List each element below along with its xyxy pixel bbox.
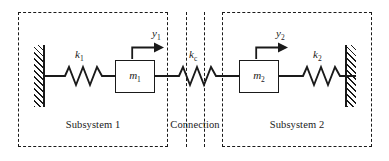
mass-m1-subscript: 1 [137, 75, 141, 84]
displacement-y2-label: y2 [276, 28, 285, 42]
fixed-wall-left [33, 45, 45, 107]
spring-k2-label: k2 [313, 49, 322, 63]
displacement-y2-subscript: 2 [281, 33, 285, 42]
mass-m2-symbol: m [253, 69, 261, 81]
spring-k2 [299, 64, 345, 88]
spring-k1-label: k1 [75, 49, 84, 63]
spring-k2-subscript: 2 [318, 54, 322, 63]
connector-rod-kc-to-m2 [220, 75, 240, 77]
spring-k1-subscript: 1 [80, 54, 84, 63]
connector-rod-wall-left-to-k1 [45, 75, 62, 77]
wall-hatching-left [34, 45, 43, 107]
connector-rod-k2-to-wall-right [344, 75, 356, 77]
connector-rod-m2-to-k2 [278, 75, 300, 77]
mass-m1-symbol: m [129, 69, 137, 81]
subsystem-2-caption: Subsystem 2 [222, 119, 372, 130]
spring-k1 [61, 64, 107, 88]
spring-kc-label: kc [189, 49, 197, 63]
mass-m2-subscript: 2 [261, 75, 265, 84]
mass-m2-label: m2 [253, 70, 265, 84]
displacement-y1-label: y1 [152, 28, 161, 42]
mass-m1-label: m1 [129, 70, 141, 84]
mass-m1: m1 [115, 60, 155, 93]
connection-caption: Connection [160, 119, 230, 130]
subsystem-1-caption: Subsystem 1 [18, 119, 168, 130]
spring-kc [175, 64, 221, 88]
displacement-y1-subscript: 1 [157, 33, 161, 42]
mass-spring-system-diagram: k1 m1 y1 kc m2 y2 [0, 0, 389, 161]
spring-kc-subscript: c [194, 54, 197, 63]
connector-rod-m1-to-kc [154, 75, 176, 77]
mass-m2: m2 [239, 60, 279, 93]
